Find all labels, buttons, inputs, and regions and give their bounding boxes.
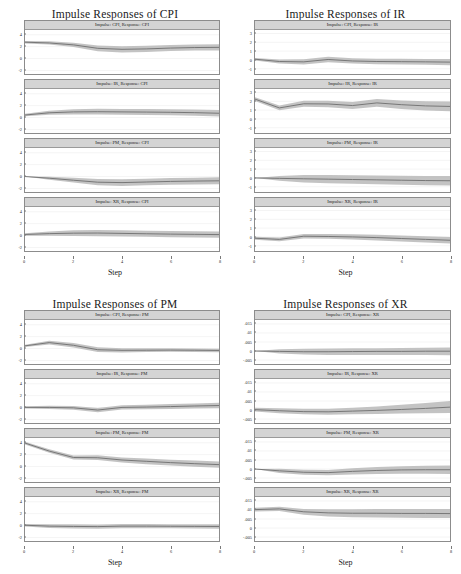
subplot-title-bar: Impulse: PM, Response: IR xyxy=(255,139,450,148)
y-tick-label: 0 xyxy=(250,407,252,412)
y-tick-label: 2 xyxy=(250,98,252,103)
y-tick-label: 1 xyxy=(250,225,252,230)
x-tick-label: 2 xyxy=(302,259,304,264)
y-axis-labels: -2024 xyxy=(2,437,24,482)
plot-area xyxy=(255,438,450,482)
plot-area xyxy=(255,89,450,133)
x-axis-cpi: 02468 xyxy=(24,256,220,267)
plot-area xyxy=(255,207,450,251)
y-tick-label: .01 xyxy=(247,448,252,453)
subplot-title-bar: Impulse: XR, Response: IR xyxy=(255,198,450,207)
subplot-title: Impulse: IR, Response: IR xyxy=(255,80,450,88)
y-axis-labels: -10123 xyxy=(232,206,254,251)
plot-area xyxy=(255,497,450,541)
x-tick-label: 6 xyxy=(170,549,172,554)
x-tick-label: 2 xyxy=(72,549,74,554)
irf-subplot: Impulse: XR, Response: IR-10123 xyxy=(254,197,451,252)
y-tick-label: .015 xyxy=(244,498,252,503)
confidence-band xyxy=(255,401,450,415)
y-tick-label: -2 xyxy=(18,127,22,132)
x-axis-title-pm: Step xyxy=(0,558,230,567)
y-tick-label: .015 xyxy=(244,321,252,326)
y-tick-label: .005 xyxy=(244,457,252,462)
y-tick-label: 4 xyxy=(20,31,22,36)
y-tick-label: 1 xyxy=(250,107,252,112)
y-axis-labels: -.0050.005.01.015 xyxy=(232,496,254,541)
irf-subplot: Impulse: XR, Response: PM-2024 xyxy=(24,487,220,542)
y-axis-labels: -2024 xyxy=(2,147,24,192)
x-tick-label: 2 xyxy=(302,549,304,554)
confidence-band xyxy=(255,97,450,111)
irf-subplot: Impulse: PM, Response: PM-2024 xyxy=(24,428,220,483)
y-tick-label: 2 xyxy=(20,452,22,457)
y-tick-label: 2 xyxy=(20,334,22,339)
y-tick-label: 0 xyxy=(20,346,22,351)
quadrant-cpi: Impulse Responses of CPI Impulse: CPI, R… xyxy=(0,0,230,290)
y-tick-label: -2 xyxy=(18,245,22,250)
panel-stack-xr: Impulse: CPI, Response: XR-.0050.005.01.… xyxy=(254,310,451,542)
y-tick-label: -.005 xyxy=(243,534,252,539)
y-tick-label: 2 xyxy=(20,162,22,167)
y-tick-label: 4 xyxy=(20,321,22,326)
subplot-title-bar: Impulse: XR, Response: PM xyxy=(25,488,219,497)
plot-area xyxy=(25,438,219,482)
y-tick-label: 0 xyxy=(250,57,252,62)
subplot-title-bar: Impulse: CPI, Response: IR xyxy=(255,21,450,30)
y-tick-label: -1 xyxy=(248,125,252,130)
irf-subplot: Impulse: IR, Response: CPI-2024 xyxy=(24,79,220,134)
y-tick-label: 0 xyxy=(250,466,252,471)
plot-area xyxy=(255,148,450,192)
y-axis-labels: -2024 xyxy=(2,496,24,541)
x-axis-pm: 02468 xyxy=(24,546,220,557)
y-tick-label: .005 xyxy=(244,398,252,403)
irf-subplot: Impulse: CPI, Response: CPI-2024 xyxy=(24,20,220,75)
y-tick-label: 2 xyxy=(20,44,22,49)
x-tick-label: 6 xyxy=(170,259,172,264)
y-axis-labels: -.0050.005.01.015 xyxy=(232,319,254,364)
irf-subplot: Impulse: IR, Response: PM-2024 xyxy=(24,369,220,424)
irf-subplot: Impulse: PM, Response: CPI-2024 xyxy=(24,138,220,193)
plot-area xyxy=(25,497,219,541)
y-tick-label: 4 xyxy=(20,90,22,95)
y-tick-label: 1 xyxy=(250,166,252,171)
subplot-title-bar: Impulse: CPI, Response: XR xyxy=(255,311,450,320)
plot-area xyxy=(25,30,219,74)
y-tick-label: 0 xyxy=(20,56,22,61)
y-tick-label: 2 xyxy=(250,157,252,162)
y-axis-labels: -.0050.005.01.015 xyxy=(232,378,254,423)
x-axis-title-xr: Step xyxy=(230,558,461,567)
subplot-title: Impulse: PM, Response: IR xyxy=(255,139,450,147)
y-tick-label: .015 xyxy=(244,439,252,444)
y-tick-label: 4 xyxy=(20,498,22,503)
x-axis-ir: 02468 xyxy=(254,256,451,267)
subplot-title: Impulse: IR, Response: XR xyxy=(255,370,450,378)
y-axis-labels: -10123 xyxy=(232,88,254,133)
x-tick-label: 8 xyxy=(450,259,452,264)
y-tick-label: .015 xyxy=(244,380,252,385)
subplot-title: Impulse: CPI, Response: IR xyxy=(255,21,450,29)
panel-stack-pm: Impulse: CPI, Response: PM-2024Impulse: … xyxy=(24,310,220,542)
y-axis-labels: -2024 xyxy=(2,378,24,423)
x-tick-label: 0 xyxy=(23,549,25,554)
y-tick-label: 0 xyxy=(20,115,22,120)
plot-area xyxy=(25,379,219,423)
y-axis-labels: -2024 xyxy=(2,206,24,251)
y-axis-labels: -10123 xyxy=(232,147,254,192)
irf-subplot: Impulse: IR, Response: IR-10123 xyxy=(254,79,451,134)
y-tick-label: .005 xyxy=(244,516,252,521)
x-tick-label: 6 xyxy=(401,549,403,554)
subplot-title-bar: Impulse: CPI, Response: CPI xyxy=(25,21,219,30)
subplot-title: Impulse: CPI, Response: PM xyxy=(25,311,219,319)
irf-subplot: Impulse: CPI, Response: IR-10123 xyxy=(254,20,451,75)
irf-subplot: Impulse: CPI, Response: XR-.0050.005.01.… xyxy=(254,310,451,365)
x-tick-label: 4 xyxy=(351,549,353,554)
x-tick-label: 0 xyxy=(23,259,25,264)
y-tick-label: 0 xyxy=(250,525,252,530)
confidence-band xyxy=(255,466,450,476)
quadrant-xr: Impulse Responses of XR Impulse: CPI, Re… xyxy=(230,290,461,574)
irf-subplot: Impulse: PM, Response: IR-10123 xyxy=(254,138,451,193)
x-axis-title-ir: Step xyxy=(230,268,461,277)
y-tick-label: -1 xyxy=(248,243,252,248)
y-tick-label: .01 xyxy=(247,389,252,394)
subplot-title-bar: Impulse: XR, Response: XR xyxy=(255,488,450,497)
